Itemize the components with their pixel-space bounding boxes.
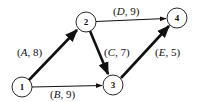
svg-text:4: 4 [175,13,180,23]
edge-b [32,86,102,88]
node-2: 2 [76,12,96,32]
edge-label-e: (E, 5) [155,46,180,58]
svg-text:3: 3 [111,80,116,90]
node-1: 1 [12,77,32,97]
edge-label-b: (B, 9) [50,88,75,100]
edge-label-d: (D, 9) [113,5,139,17]
node-3: 3 [103,75,123,95]
edge-label-c: (C, 7) [104,46,130,58]
edge-label-a: (A, 8) [17,46,42,58]
svg-text:1: 1 [20,82,25,92]
svg-text:2: 2 [84,17,89,27]
edge-d [96,19,166,22]
node-4: 4 [167,8,187,28]
